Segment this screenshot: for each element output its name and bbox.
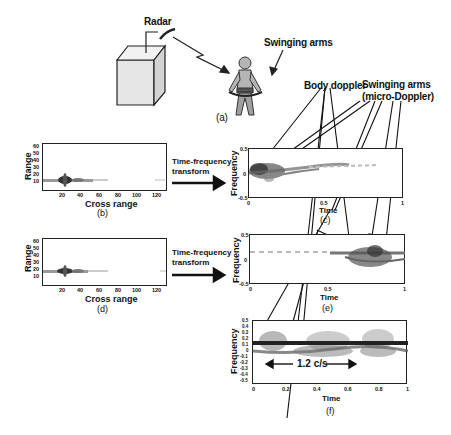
- xtick: 1: [406, 386, 409, 392]
- ytick: -0.2: [240, 360, 248, 365]
- ytick: -0.4: [240, 372, 248, 377]
- ytick: 0: [246, 348, 249, 353]
- ytick: -0.1: [240, 354, 248, 359]
- ylabel-f: Frequency: [229, 328, 239, 374]
- period-arrow: [0, 0, 451, 435]
- xtick: 0.6: [344, 386, 352, 392]
- ytick: 0.2: [242, 336, 248, 341]
- xtick: 0.4: [313, 386, 321, 392]
- ytick: -0.5: [240, 378, 248, 383]
- period-annotation: 1.2 c/s: [297, 358, 328, 369]
- xtick: 0.8: [375, 386, 383, 392]
- ytick: -0.3: [240, 366, 248, 371]
- ytick: 0.4: [242, 324, 248, 329]
- xtick: 0.2: [282, 386, 290, 392]
- ytick: 0.3: [242, 330, 248, 335]
- ytick: 0.5: [242, 318, 248, 323]
- ytick: 0.1: [242, 342, 248, 347]
- caption-f: (f): [326, 406, 335, 416]
- xtick: 0: [252, 386, 255, 392]
- xlabel-f: Time: [322, 394, 341, 403]
